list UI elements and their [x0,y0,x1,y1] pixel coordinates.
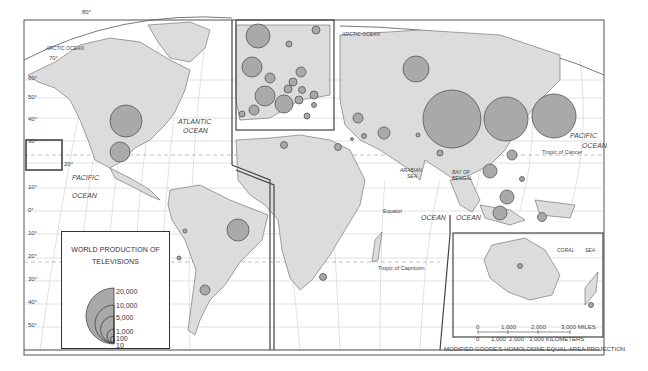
legend-value-10000: 10,000 [116,302,137,310]
label-pacific-e-ocean: OCEAN [582,142,608,149]
circle-pakistan [416,133,420,137]
scale-miles-3000: 3,000 MILES [561,324,596,330]
circle-sweden [286,41,292,47]
svg-text:10°: 10° [28,230,38,236]
scale-miles-1000: 1,000 [501,324,516,330]
circle-yugoslavia [295,96,303,104]
svg-text:SEA: SEA [585,247,596,253]
circle-romania [310,91,318,99]
svg-text:20°: 20° [28,253,38,259]
circle-china [423,90,481,148]
label-tropic-cancer: Tropic of Cancer [542,149,583,155]
circle-finland [312,26,320,34]
projection-caption: MODIFIED GOODE'S HOMOLOSINE EQUAL-AREA P… [444,346,625,352]
svg-text:10°: 10° [28,184,38,190]
circle-brazil [227,219,249,241]
scale-km-2000: 2,000 [509,336,524,342]
circle-hungary [299,87,306,94]
label-arctic-ocean-e: ARCTIC OCEAN [341,31,380,37]
circle-peru [177,256,181,260]
label-atlantic: ATLANTIC [177,118,212,125]
circle-turkey [353,113,363,123]
circle-austria [284,85,292,93]
circle-france [255,86,275,106]
svg-text:40°: 40° [28,299,38,305]
circle-indonesia [538,213,547,222]
circle-colombia [183,229,187,233]
circle-iraq [362,134,367,139]
legend-value-10: 10 [116,342,124,350]
svg-text:20°: 20° [64,161,74,167]
circle-india [437,150,443,156]
svg-text:80°: 80° [82,9,92,15]
circle-singapore [493,206,507,220]
circle-bulgaria [312,103,317,108]
circle-argentina [200,285,210,295]
circle-ussr [403,56,429,82]
label-equator: Equator [383,208,402,214]
circle-portugal [239,111,245,117]
scale-km-3000: 3,000 KILOMETERS [529,336,584,342]
circle-algeria [281,142,288,149]
circle-uk [246,24,270,48]
scale-miles-2000: 2,000 [531,324,546,330]
circle-czech [289,78,297,86]
svg-text:SEA: SEA [407,173,418,179]
circle-egypt [335,144,342,151]
circle-australia [518,264,523,269]
svg-text:30°: 30° [28,138,38,144]
circle-new-zealand [589,303,594,308]
svg-text:50°: 50° [28,94,38,100]
circle-malaysia [500,190,514,204]
label-tropic-capricorn: Tropic of Capricorn [378,265,425,271]
circle-usa [110,105,142,137]
circle-spain [249,105,259,115]
circle-mexico [110,142,130,162]
svg-text:0°: 0° [28,207,34,213]
circle-philippines [520,177,525,182]
svg-text:60°: 60° [28,75,38,81]
svg-text:70°: 70° [49,55,59,61]
circle-greece [304,113,310,119]
label-pacific-w-ocean: OCEAN [72,192,98,199]
circle-germany [242,57,262,77]
circle-taiwan [507,150,517,160]
svg-text:40°: 40° [28,116,38,122]
svg-text:BENGAL: BENGAL [452,175,473,181]
label-coral-sea: CORAL [557,247,574,253]
circle-thailand [483,164,497,178]
label-atlantic-ocean: OCEAN [183,127,209,134]
circle-korea [484,97,528,141]
legend-value-5000: 5,000 [116,314,134,322]
circle-netherlands [265,73,275,83]
scale-km-0: 0 [476,336,479,342]
legend: WORLD PRODUCTION OF TELEVISIONS 20,000 1… [61,231,170,349]
circle-israel [351,138,354,141]
label-arctic-ocean-w: ARCTIC OCEAN [45,45,84,51]
label-indian-ocean: OCEAN [456,214,482,221]
scale-km-1000: 1,000 [491,336,506,342]
label-pacific-e: PACIFIC [570,132,598,139]
circle-italy [275,95,293,113]
circle-south-africa [320,274,327,281]
circle-iran [378,127,390,139]
label-pacific-w: PACIFIC [72,174,100,181]
svg-text:50°: 50° [28,322,38,328]
label-indian: OCEAN [421,214,447,221]
circle-poland [296,67,306,77]
scale-miles-0: 0 [476,324,479,330]
svg-text:30°: 30° [28,276,38,282]
legend-value-20000: 20,000 [116,288,137,296]
